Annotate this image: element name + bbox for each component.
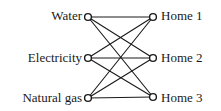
- graph-node-electricity: [85, 55, 92, 62]
- graph-node-home-3: [150, 94, 157, 101]
- node-label-water: Water: [51, 9, 82, 22]
- graph-edge-natural-gas-home-3: [88, 97, 153, 98]
- node-label-home-2: Home 2: [161, 51, 203, 64]
- edges-group: [88, 17, 153, 98]
- node-label-home-3: Home 3: [161, 91, 203, 104]
- bipartite-graph-diagram: Water Electricity Natural gas Home 1 Hom…: [0, 0, 221, 111]
- graph-node-water: [85, 14, 92, 21]
- graph-node-home-2: [150, 55, 157, 62]
- graph-node-natural-gas: [85, 95, 92, 102]
- graph-node-home-1: [150, 14, 157, 21]
- node-label-electricity: Electricity: [28, 51, 82, 64]
- node-label-home-1: Home 1: [161, 9, 203, 22]
- node-label-natural-gas: Natural gas: [22, 91, 82, 104]
